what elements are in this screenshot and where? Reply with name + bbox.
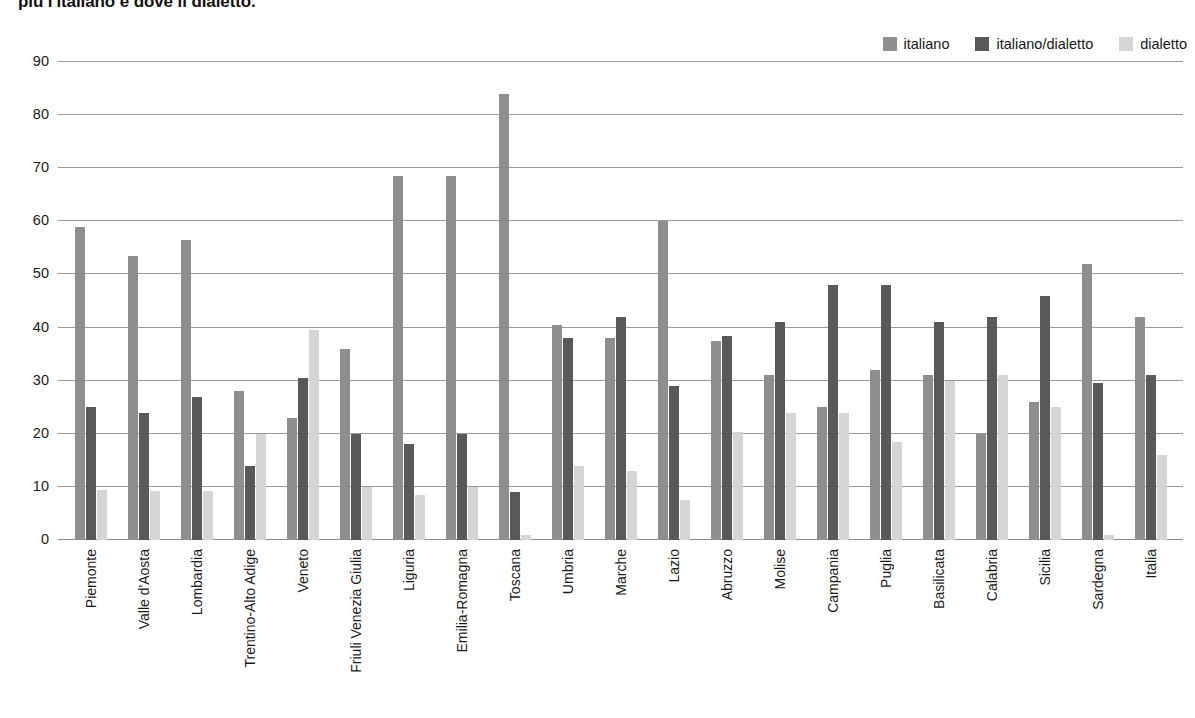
x-axis-label: Veneto: [296, 549, 310, 593]
x-axis-label: Calabria: [985, 549, 999, 601]
bar[interactable]: [680, 500, 690, 540]
x-axis-label: Campania: [826, 549, 840, 613]
bar[interactable]: [923, 375, 933, 540]
bar[interactable]: [934, 322, 944, 540]
bar[interactable]: [616, 317, 626, 540]
bar[interactable]: [987, 317, 997, 540]
legend-item-italiano[interactable]: italiano: [883, 36, 950, 52]
bar-group: [488, 62, 541, 540]
legend-item-label: italiano/dialetto: [996, 36, 1093, 52]
x-axis-label-cell: Piemonte: [64, 545, 117, 715]
bar[interactable]: [415, 495, 425, 540]
bar[interactable]: [881, 285, 891, 540]
page-title: più l'italiano e dove il dialetto.: [0, 0, 1195, 13]
bar[interactable]: [828, 285, 838, 540]
x-axis-label-cell: Abruzzo: [700, 545, 753, 715]
legend-swatch-dialetto: [1119, 37, 1133, 51]
x-axis-label-cell: Emilia-Romagna: [435, 545, 488, 715]
bar-group: [594, 62, 647, 540]
bar[interactable]: [287, 418, 297, 540]
x-axis-label-cell: Trentino-Alto Adige: [223, 545, 276, 715]
bar[interactable]: [245, 466, 255, 540]
bar[interactable]: [203, 491, 213, 540]
bar[interactable]: [1040, 296, 1050, 540]
x-axis-label-cell: Marche: [594, 545, 647, 715]
bar-group: [912, 62, 965, 540]
legend-item-label: italiano: [904, 36, 950, 52]
chart-title-bar: più l'italiano e dove il dialetto.: [0, 0, 1195, 13]
x-axis-label: Emilia-Romagna: [455, 549, 469, 652]
bar[interactable]: [722, 336, 732, 540]
legend-item-italiano-dialetto[interactable]: italiano/dialetto: [975, 36, 1093, 52]
bar[interactable]: [786, 413, 796, 540]
bar[interactable]: [669, 386, 679, 540]
bar[interactable]: [404, 444, 414, 540]
bar[interactable]: [1135, 317, 1145, 540]
bar[interactable]: [468, 487, 478, 540]
bar[interactable]: [510, 492, 520, 540]
y-tick-label: 10: [33, 478, 49, 494]
bar[interactable]: [298, 378, 308, 540]
bar[interactable]: [309, 330, 319, 540]
bar[interactable]: [839, 413, 849, 540]
legend-swatch-italiano-dialetto: [975, 37, 989, 51]
bar-group: [117, 62, 170, 540]
bar-group: [647, 62, 700, 540]
bar[interactable]: [139, 413, 149, 540]
x-axis-label: Molise: [773, 549, 787, 589]
bar[interactable]: [393, 176, 403, 540]
bar[interactable]: [362, 487, 372, 540]
bar[interactable]: [1146, 375, 1156, 540]
bar[interactable]: [1104, 535, 1114, 540]
bar[interactable]: [128, 256, 138, 540]
x-axis-label: Liguria: [402, 549, 416, 591]
bar[interactable]: [499, 94, 509, 540]
bar[interactable]: [256, 434, 266, 540]
bar[interactable]: [892, 442, 902, 540]
bar[interactable]: [340, 349, 350, 540]
bar[interactable]: [192, 397, 202, 540]
bar[interactable]: [945, 381, 955, 540]
bar[interactable]: [97, 490, 107, 540]
bar[interactable]: [998, 375, 1008, 540]
bar[interactable]: [1082, 264, 1092, 540]
y-tick-label: 20: [33, 425, 49, 441]
bar[interactable]: [86, 407, 96, 540]
bar[interactable]: [446, 176, 456, 540]
bar-group: [170, 62, 223, 540]
bar[interactable]: [457, 434, 467, 540]
bar[interactable]: [605, 338, 615, 540]
x-axis-label-cell: Liguria: [382, 545, 435, 715]
bar[interactable]: [1093, 383, 1103, 540]
x-axis-label-cell: Toscana: [488, 545, 541, 715]
bar[interactable]: [733, 432, 743, 540]
bar[interactable]: [181, 240, 191, 540]
y-tick-label: 30: [33, 372, 49, 388]
bar[interactable]: [1157, 455, 1167, 540]
bar[interactable]: [976, 434, 986, 540]
x-axis-label: Umbria: [561, 549, 575, 594]
bar[interactable]: [574, 466, 584, 540]
bar[interactable]: [764, 375, 774, 540]
x-axis-label: Abruzzo: [720, 549, 734, 600]
bar[interactable]: [351, 434, 361, 540]
bar[interactable]: [75, 227, 85, 540]
bar[interactable]: [234, 391, 244, 540]
bar[interactable]: [1051, 407, 1061, 540]
bars-layer: [58, 62, 1183, 540]
bar[interactable]: [552, 325, 562, 540]
bar[interactable]: [563, 338, 573, 540]
legend-item-dialetto[interactable]: dialetto: [1119, 36, 1187, 52]
bar[interactable]: [150, 491, 160, 540]
bar[interactable]: [627, 471, 637, 540]
bar[interactable]: [521, 535, 531, 540]
bar[interactable]: [870, 370, 880, 540]
bar[interactable]: [658, 221, 668, 540]
bar[interactable]: [775, 322, 785, 540]
bar[interactable]: [817, 407, 827, 540]
x-axis-label: Piemonte: [84, 549, 98, 608]
x-axis-label: Sicilia: [1038, 549, 1052, 586]
bar-group: [64, 62, 117, 540]
bar[interactable]: [711, 341, 721, 540]
bar[interactable]: [1029, 402, 1039, 540]
